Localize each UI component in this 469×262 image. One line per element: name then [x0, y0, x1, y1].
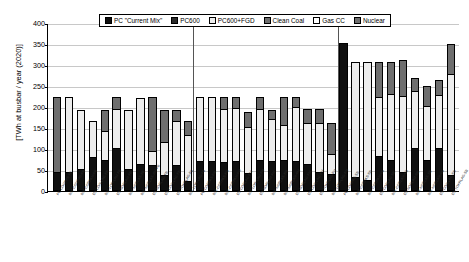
y-axis-label: [TWh at busbar / year (2020)] — [14, 13, 23, 173]
x-label-slot: DX-NORLAG-FM — [289, 193, 301, 261]
bar-series-container — [48, 24, 459, 191]
bar-slot — [326, 24, 338, 191]
x-label-slot: DX-CON-LAG-FB — [158, 193, 170, 261]
bar-segment — [257, 110, 263, 161]
x-label-slot: 80X-NORLAS-FM — [265, 193, 277, 261]
legend-swatch-icon — [354, 17, 361, 24]
bar-segment — [66, 98, 72, 173]
legend-swatch-icon — [264, 17, 271, 24]
legend-swatch-icon — [313, 17, 320, 24]
x-label-slot: DX-NORLAG-FB — [146, 193, 158, 261]
bar-segment — [233, 109, 239, 162]
bar-segment — [257, 98, 263, 110]
bar-segment — [269, 111, 275, 120]
bar-segment — [149, 98, 155, 152]
bar-segment — [412, 92, 418, 149]
legend-item[interactable]: PC600+FGD — [209, 17, 255, 24]
x-label-slot: DX-TOKRLAG-FM — [313, 193, 325, 261]
bar-segment — [149, 152, 155, 166]
x-label-slot: 80X-CORLAM-SB — [385, 193, 397, 261]
bar-segment — [412, 79, 418, 91]
y-tick-label: 350 — [33, 41, 45, 48]
bar-slot — [218, 24, 230, 191]
legend-label: Clean Coal — [273, 17, 305, 24]
bar-slot — [338, 24, 350, 191]
x-label-slot: 80X-LOR-LAG-FM — [325, 193, 337, 261]
bar-slot — [266, 24, 278, 191]
x-label-slot: DX-TOKRLAG-FB — [170, 193, 182, 261]
legend-label: PC600+FGD — [218, 17, 255, 24]
bar-segment — [436, 96, 442, 149]
bar-slot — [290, 24, 302, 191]
bar-slot — [254, 24, 266, 191]
bar-slot — [170, 24, 182, 191]
legend-item[interactable]: Nuclear — [354, 17, 385, 24]
x-label-slot: DX-CORLAG-SB — [373, 193, 385, 261]
plot-area: 050100150200250300350400 — [47, 24, 459, 192]
legend-label: Gas CC — [322, 17, 345, 24]
x-label-slot: 80X-CORPAS-FM — [206, 193, 218, 261]
legend-swatch-icon — [171, 17, 178, 24]
bar-slot — [445, 24, 457, 191]
x-label-slot: 80X-CORPAS-SB — [349, 193, 361, 261]
bar-segment — [388, 63, 394, 96]
x-label-slot: 80X-NORLAM-FM — [277, 193, 289, 261]
x-label-slot: DX-TOKRLAG-SB — [445, 193, 457, 261]
bar-slot — [99, 24, 111, 191]
bar-slot — [302, 24, 314, 191]
legend-label: Nuclear — [363, 17, 385, 24]
bar-slot — [75, 24, 87, 191]
x-label-slot: 80X-CORPAM-FB — [74, 193, 86, 261]
bar-slot — [206, 24, 218, 191]
x-label-slot: DX-CORLAG-FM — [230, 193, 242, 261]
bar-slot — [278, 24, 290, 191]
bar-slot — [433, 24, 445, 191]
bar-segment — [328, 124, 334, 156]
legend-item[interactable]: PC600 — [171, 17, 200, 24]
bar-segment — [173, 111, 179, 121]
legend-item[interactable]: Clean Coal — [264, 17, 305, 24]
legend-item[interactable]: PC "Current Mix" — [105, 17, 162, 24]
x-label-slot: 80X-NORLAS-SB — [409, 193, 421, 261]
bar-segment — [185, 122, 191, 136]
bar-slot — [397, 24, 409, 191]
x-label-slot: 80X-NORLAS-AM-FB — [134, 193, 146, 261]
bar-segment — [233, 98, 239, 109]
bar-segment — [304, 110, 310, 124]
bar-slot — [194, 24, 206, 191]
bar-segment — [448, 45, 454, 75]
bar-segment — [102, 111, 108, 133]
bar-segment — [173, 122, 179, 166]
bar-segment — [376, 98, 382, 158]
y-tick-label: 250 — [33, 83, 45, 90]
bar-segment — [245, 113, 251, 128]
legend-item[interactable]: Gas CC — [313, 17, 345, 24]
bar-segment — [281, 126, 287, 161]
stacked-bar[interactable] — [53, 97, 61, 191]
bar-slot — [421, 24, 433, 191]
bar-segment — [113, 110, 119, 149]
bar-slot — [314, 24, 326, 191]
legend-swatch-icon — [209, 17, 216, 24]
bar-segment — [281, 98, 287, 126]
bar-segment — [221, 110, 227, 163]
bar-segment — [376, 63, 382, 98]
bar-slot — [111, 24, 123, 191]
bar-slot — [123, 24, 135, 191]
bar-segment — [364, 63, 370, 181]
legend-swatch-icon — [105, 17, 112, 24]
bar-segment — [269, 120, 275, 163]
x-label-slot: PC-CORPAS-SB — [337, 193, 349, 261]
y-tick-label: 150 — [33, 125, 45, 132]
bar-slot — [361, 24, 373, 191]
x-label-slot: PC-COMPAS-FB — [50, 193, 62, 261]
bar-segment — [304, 124, 310, 165]
y-tick-label: 100 — [33, 146, 45, 153]
bar-slot — [409, 24, 421, 191]
bar-segment — [102, 132, 108, 161]
y-tick-label: 400 — [33, 20, 45, 27]
x-label-slot: 80X-LOR-LAM-FM — [242, 193, 254, 261]
bar-segment — [352, 63, 358, 178]
chart-legend: PC "Current Mix"PC600PC600+FGDClean Coal… — [99, 14, 391, 27]
bar-segment — [400, 61, 406, 97]
